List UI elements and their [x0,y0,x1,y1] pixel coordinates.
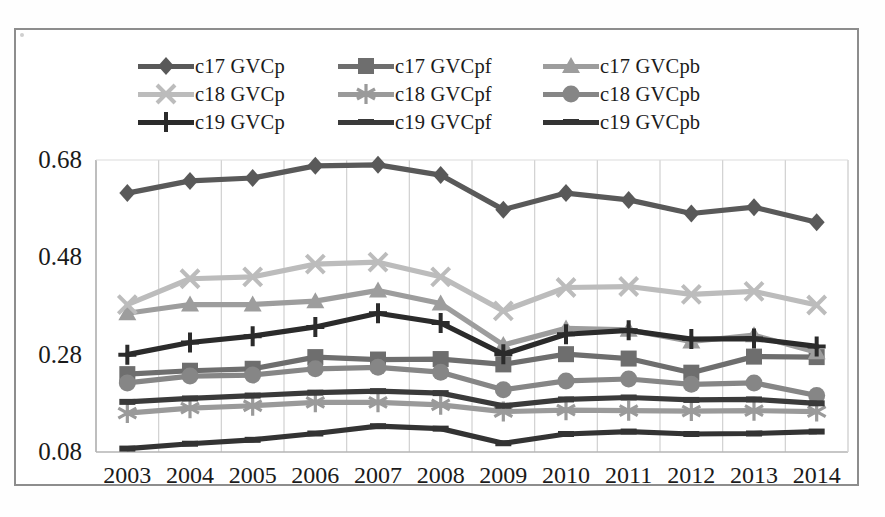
legend-label: c19 GVCp [194,111,285,134]
legend-swatch [138,56,194,76]
legend-swatch [138,112,194,132]
legend-label: c17 GVCpf [394,55,492,78]
scan-artifact [20,33,24,37]
legend-entry: c18 GVCpb [543,80,743,108]
diamond-marker-icon [153,54,179,78]
bar-marker-icon [563,119,579,125]
triangle-marker-icon [558,54,584,78]
legend-entry: c18 GVCp [138,80,338,108]
legend-label: c18 GVCpb [599,83,700,106]
legend-entry: c19 GVCpb [543,108,743,136]
legend-label: c18 GVCpf [394,83,492,106]
legend-entry: c17 GVCp [138,52,338,80]
legend-label: c19 GVCpb [599,111,700,134]
asterisk-marker-icon [357,84,375,104]
bar-marker-icon [558,110,584,134]
legend-swatch [543,84,599,104]
legend-entry: c17 GVCpb [543,52,743,80]
chart-figure: c17 GVCpc17 GVCpfc17 GVCpbc18 GVCpc18 GV… [0,0,885,517]
legend-swatch [543,56,599,76]
legend-swatch [338,84,394,104]
legend-swatch [338,112,394,132]
square-marker-icon [353,54,379,78]
square-marker-icon [358,58,374,74]
legend-entry: c19 GVCp [138,108,338,136]
legend-entry: c18 GVCpf [338,80,543,108]
bar-marker-icon [358,119,374,125]
circle-marker-icon [563,86,580,103]
legend-label: c18 GVCp [194,83,285,106]
legend-swatch [543,112,599,132]
bar-marker-icon [353,110,379,134]
cross-marker-icon [153,82,179,106]
legend-swatch [338,56,394,76]
legend-label: c17 GVCpb [599,55,700,78]
plus-marker-icon [153,110,179,134]
triangle-marker-icon [562,57,580,73]
cross-marker-icon [157,85,175,103]
legend-entry: c17 GVCpf [338,52,543,80]
circle-marker-icon [558,82,584,106]
diamond-marker-icon [158,57,174,75]
legend-swatch [138,84,194,104]
asterisk-marker-icon [353,82,379,106]
chart-legend: c17 GVCpc17 GVCpfc17 GVCpbc18 GVCpc18 GV… [138,52,738,136]
legend-entry: c19 GVCpf [338,108,543,136]
legend-label: c19 GVCpf [394,111,492,134]
legend-label: c17 GVCp [194,55,285,78]
plus-marker-icon [157,112,175,132]
